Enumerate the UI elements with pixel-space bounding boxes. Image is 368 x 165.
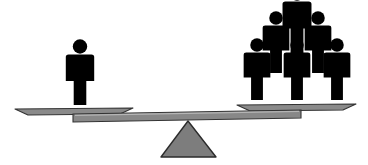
balance-scale-svg xyxy=(0,0,368,165)
balance-scale-illustration: Balance Scale Illustration A seesaw bala… xyxy=(0,0,368,165)
